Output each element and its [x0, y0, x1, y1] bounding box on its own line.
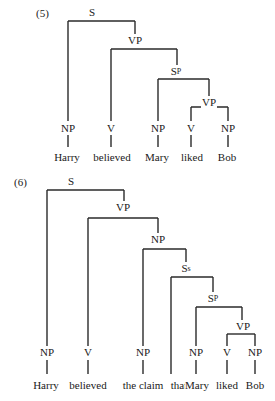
word-believed: believed	[69, 379, 106, 391]
word-harry: Harry	[54, 151, 80, 163]
tree-node-v2: V	[222, 346, 232, 358]
word-the-claim: the claim	[123, 379, 164, 391]
tree-node-sp: SP	[170, 65, 183, 78]
tree-node-s: S	[67, 175, 75, 187]
tree-node-v1: V	[83, 346, 93, 358]
tree-node-v1: V	[106, 122, 116, 134]
word-believed: believed	[93, 151, 130, 163]
tree-node-vp1: VP	[127, 34, 143, 46]
tree-node-np4: NP	[247, 346, 263, 358]
tree-node-np3: NP	[188, 346, 204, 358]
example-number: (5)	[36, 7, 49, 19]
word-mary: Mary	[185, 379, 209, 391]
tree-node-np2: NP	[135, 346, 151, 358]
example-number: (6)	[14, 176, 27, 188]
tree-node-np2: NP	[150, 122, 166, 134]
word-bob: Bob	[246, 379, 264, 391]
tree-node-np1: NP	[60, 122, 76, 134]
tree-node-v2: V	[186, 122, 196, 134]
tree-lines	[0, 0, 275, 401]
word-mary: Mary	[145, 151, 169, 163]
tree-node-ss: Ss	[180, 262, 191, 275]
tree-node-sp: SP	[207, 292, 220, 305]
tree-node-vp2: VP	[235, 320, 251, 332]
word-liked: liked	[216, 379, 238, 391]
tree-node-s: S	[88, 6, 96, 18]
tree-node-vp1: VP	[115, 201, 131, 213]
word-bob: Bob	[218, 151, 236, 163]
word-liked: liked	[181, 151, 203, 163]
tree-node-np0: NP	[150, 233, 166, 245]
word-harry: Harry	[33, 379, 59, 391]
tree-node-np3: NP	[220, 122, 236, 134]
tree-node-vp2: VP	[201, 96, 217, 108]
tree-node-np1: NP	[39, 346, 55, 358]
